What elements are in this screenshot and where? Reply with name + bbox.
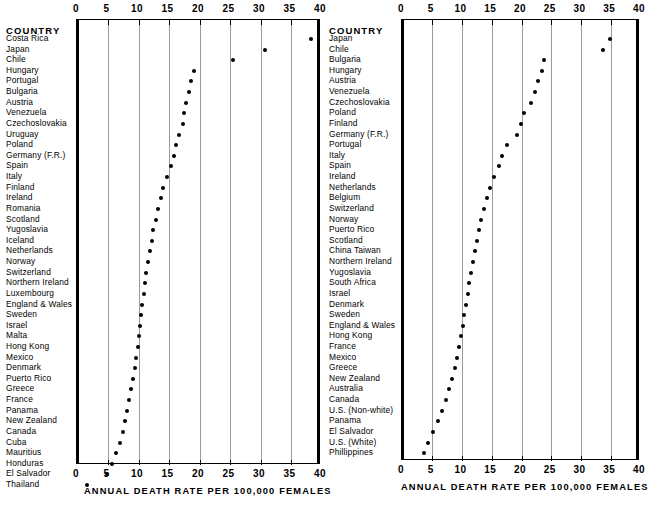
country-label: Venezuela bbox=[329, 87, 369, 95]
axis-tick-mark bbox=[108, 20, 109, 25]
axis-tick-mark bbox=[551, 456, 552, 461]
country-label: England & Wales bbox=[329, 321, 395, 329]
country-label: Northern Ireland bbox=[329, 257, 392, 265]
country-label: Puerto Rico bbox=[6, 374, 51, 382]
axis-tick-mark bbox=[581, 456, 582, 461]
data-point bbox=[422, 451, 426, 455]
axis-tick-mark bbox=[551, 20, 552, 25]
gridline bbox=[611, 20, 612, 459]
country-label: Germany (F.R.) bbox=[329, 130, 388, 138]
data-point bbox=[121, 430, 125, 434]
axis-tick-mark bbox=[492, 20, 493, 25]
data-point bbox=[436, 419, 440, 423]
gridline bbox=[230, 20, 231, 463]
axis-tick-mark bbox=[291, 460, 292, 465]
country-label: Northern Ireland bbox=[6, 278, 69, 286]
country-label: Canada bbox=[6, 427, 36, 435]
right-x-axis-title: ANNUAL DEATH RATE PER 100,000 FEMALES bbox=[401, 482, 649, 492]
axis-tick-mark bbox=[169, 20, 170, 25]
country-label: Italy bbox=[6, 172, 22, 180]
axis-tick-mark bbox=[108, 460, 109, 465]
country-label: Iceland bbox=[6, 236, 34, 244]
axis-tick-mark bbox=[492, 456, 493, 461]
country-label: Mauritius bbox=[6, 448, 41, 456]
country-label: Czechoslovakia bbox=[329, 98, 390, 106]
data-point bbox=[529, 101, 533, 105]
data-point bbox=[148, 249, 152, 253]
axis-tick-mark bbox=[261, 20, 262, 25]
country-label: China Taiwan bbox=[329, 246, 381, 254]
data-point bbox=[137, 334, 141, 338]
gridline bbox=[108, 20, 109, 463]
axis-tick-mark bbox=[139, 460, 140, 465]
axis-tick-label: 35 bbox=[284, 3, 296, 14]
data-point bbox=[475, 239, 479, 243]
axis-tick-label: 10 bbox=[455, 3, 467, 14]
data-point bbox=[159, 196, 163, 200]
axis-tick-label: 15 bbox=[162, 3, 174, 14]
data-point bbox=[123, 419, 127, 423]
gridline bbox=[261, 20, 262, 463]
axis-tick-mark bbox=[522, 456, 523, 461]
country-label: Chile bbox=[6, 55, 26, 63]
axis-tick-label: 20 bbox=[192, 468, 204, 479]
data-point bbox=[440, 409, 444, 413]
data-point bbox=[505, 143, 509, 147]
data-point bbox=[131, 377, 135, 381]
country-label: Japan bbox=[6, 45, 30, 53]
data-point bbox=[150, 239, 154, 243]
axis-tick-label: 25 bbox=[223, 468, 235, 479]
country-label: Bulgaria bbox=[329, 55, 361, 63]
data-point bbox=[450, 377, 454, 381]
right-bottom-axis: 0510152025303540 bbox=[325, 464, 647, 480]
country-label: Portugal bbox=[329, 140, 361, 148]
country-label: Honduras bbox=[6, 459, 44, 467]
country-label: Yugoslavia bbox=[6, 225, 48, 233]
axis-tick-label: 30 bbox=[574, 3, 586, 14]
data-point bbox=[144, 271, 148, 275]
gridline bbox=[522, 20, 523, 459]
axis-tick-label: 20 bbox=[192, 3, 204, 14]
data-point bbox=[139, 313, 143, 317]
country-label: Sweden bbox=[6, 310, 37, 318]
axis-tick-label: 15 bbox=[484, 464, 496, 475]
data-point bbox=[469, 271, 473, 275]
data-point bbox=[479, 218, 483, 222]
axis-tick-mark bbox=[261, 460, 262, 465]
data-point bbox=[142, 292, 146, 296]
country-label: Hungary bbox=[6, 66, 39, 74]
axis-tick-label: 40 bbox=[633, 3, 645, 14]
country-label: England & Wales bbox=[6, 300, 72, 308]
data-point bbox=[482, 207, 486, 211]
country-label: Switzerland bbox=[329, 204, 374, 212]
country-label: Japan bbox=[329, 34, 353, 42]
country-label: Panama bbox=[6, 406, 38, 414]
country-label: New Zealand bbox=[6, 416, 57, 424]
country-label: Spain bbox=[329, 161, 351, 169]
data-point bbox=[146, 260, 150, 264]
data-point bbox=[464, 303, 468, 307]
data-point bbox=[477, 228, 481, 232]
axis-tick-label: 25 bbox=[223, 3, 235, 14]
axis-tick-label: 40 bbox=[633, 464, 645, 475]
country-label: Israel bbox=[329, 289, 350, 297]
axis-tick-label: 20 bbox=[514, 464, 526, 475]
country-label: U.S. (Non-white) bbox=[329, 406, 393, 414]
data-point bbox=[497, 164, 501, 168]
data-point bbox=[608, 37, 612, 41]
country-label: Denmark bbox=[329, 300, 364, 308]
gridline bbox=[169, 20, 170, 463]
data-point bbox=[110, 462, 114, 466]
country-label: France bbox=[329, 342, 356, 350]
country-label: Greece bbox=[329, 363, 357, 371]
axis-tick-label: 25 bbox=[544, 464, 556, 475]
axis-tick-mark bbox=[139, 20, 140, 25]
data-point bbox=[459, 334, 463, 338]
axis-tick-mark bbox=[432, 20, 433, 25]
axis-tick-mark bbox=[462, 456, 463, 461]
axis-tick-label: 5 bbox=[104, 3, 110, 14]
data-point bbox=[466, 292, 470, 296]
axis-tick-mark bbox=[581, 20, 582, 25]
country-label: Luxembourg bbox=[6, 289, 54, 297]
country-label: South Africa bbox=[329, 278, 376, 286]
